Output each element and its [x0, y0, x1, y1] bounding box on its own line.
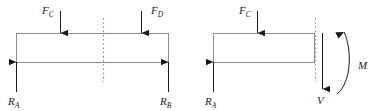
beam-body — [214, 34, 315, 63]
beam-body — [17, 34, 169, 63]
cut-section-diagram: FC RA V M — [204, 4, 368, 110]
load-fc-label: FC — [41, 4, 55, 19]
figure-canvas: FC FD RA RB — [0, 0, 377, 111]
reaction-ra-subscript: A — [211, 101, 217, 110]
load-fc-label: FC — [238, 4, 252, 19]
reaction-ra-label: RA — [7, 95, 20, 110]
bending-moment-m-arc — [337, 32, 349, 94]
bending-moment-m-symbol: M — [357, 59, 368, 71]
free-body-diagram-figure: FC FD RA RB — [0, 0, 377, 111]
reaction-rb-label: RB — [159, 95, 172, 110]
load-fc-subscript: C — [49, 10, 55, 19]
load-fd-subscript: D — [157, 10, 164, 19]
shear-force-v-label: V — [317, 94, 325, 106]
reaction-rb-subscript: B — [167, 101, 172, 110]
load-fd-label: FD — [150, 4, 164, 19]
reaction-ra-label: RA — [204, 95, 217, 110]
shear-force-v-symbol: V — [317, 94, 325, 106]
reaction-ra-subscript: A — [14, 101, 20, 110]
bending-moment-m-label: M — [357, 59, 368, 71]
full-beam-diagram: FC FD RA RB — [7, 4, 172, 110]
load-fc-subscript: C — [246, 10, 252, 19]
